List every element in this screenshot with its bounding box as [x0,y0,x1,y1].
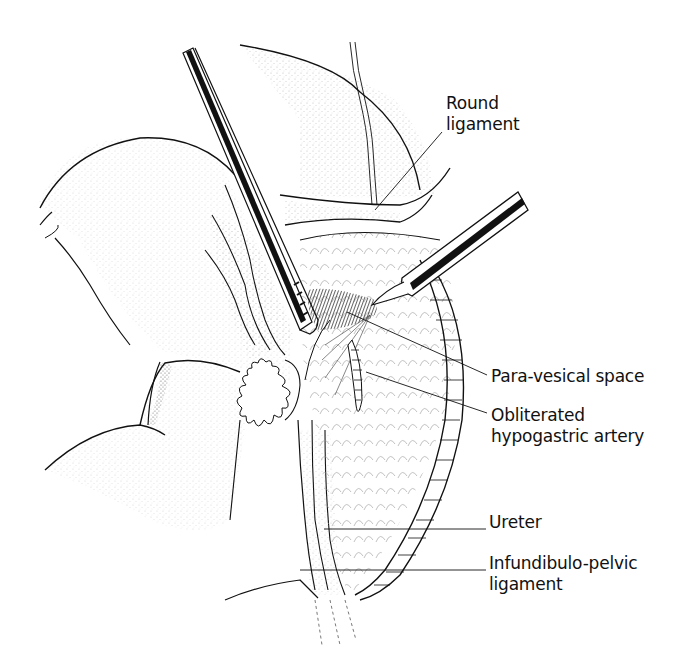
label-obliterated-line2: hypogastric artery [491,426,644,447]
label-obliterated-hypogastric-artery: Obliterated hypogastric artery [491,405,644,447]
label-round-ligament-line1: Round [446,93,520,114]
label-round-ligament: Round ligament [446,93,520,135]
label-infundibulo-pelvic-ligament: Infundibulo-pelvic ligament [489,553,637,595]
label-para-vesical-space: Para-vesical space [491,366,644,387]
label-infundibulo-line2: ligament [489,574,637,595]
label-ureter: Ureter [489,512,541,533]
label-para-vesical-line1: Para-vesical space [491,366,644,387]
label-infundibulo-line1: Infundibulo-pelvic [489,553,637,574]
label-ureter-line1: Ureter [489,512,541,533]
label-round-ligament-line2: ligament [446,114,520,135]
bowel [45,360,250,530]
label-obliterated-line1: Obliterated [491,405,644,426]
upper-organ [240,42,435,205]
